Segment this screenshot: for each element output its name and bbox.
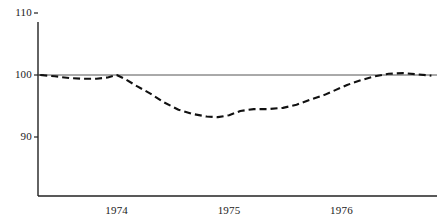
x-tick-label-1974: 1974 bbox=[87, 205, 147, 216]
chart-figure: 110 100 90 1974 1975 1976 bbox=[0, 0, 439, 223]
x-tick-label-1975: 1975 bbox=[199, 205, 259, 216]
y-tick-label-90: 90 bbox=[0, 131, 32, 142]
x-tick-label-1976: 1976 bbox=[311, 205, 371, 216]
chart-plot-area bbox=[0, 0, 439, 223]
y-tick-label-110: 110 bbox=[0, 7, 32, 18]
data-line-index bbox=[40, 73, 431, 117]
y-tick-label-100: 100 bbox=[0, 69, 32, 80]
